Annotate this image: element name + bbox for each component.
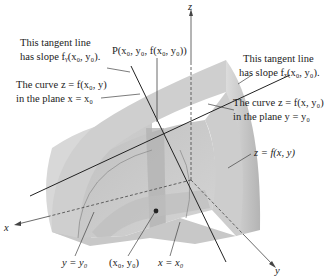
y-axis-label: y [274,265,280,276]
annotation-tangent-fy-line2: has slope fᵧ(x₀, y₀). [20,51,100,63]
x-axis-arrow-icon [14,221,21,226]
annotation-plane-y0: y = y₀ [61,257,88,268]
partial-derivatives-diagram: z x y P(x₀, y₀, f(x₀, y₀)) This tangent … [0,0,330,276]
x-axis-front [18,216,50,224]
annotation-tangent-fx-line2: has slope fₓ(x₀, y₀). [239,67,320,79]
z-axis-label: z [187,1,192,12]
annotation-tangent-fx-line1: This tangent line [243,53,314,64]
annotation-curve-x0-line1: The curve z = f(x₀, y) [16,79,107,91]
annotation-curve-x0-line2: in the plane x = x₀ [16,93,93,104]
annotation-curve-y0-line1: The curve z = f(x, y₀) [233,97,324,109]
annotation-plane-x0: x = x₀ [157,257,184,268]
x-axis-label: x [3,222,9,233]
y-axis-front [243,234,273,265]
annotation-tangent-fy-line1: This tangent line [20,37,91,48]
annotation-base-point: (x₀, y₀) [109,257,140,269]
annotation-curve-y0-line2: in the plane y = y₀ [233,111,310,122]
point-p-label: P(x₀, y₀, f(x₀, y₀)) [112,45,187,57]
leader-curve-x0 [101,94,140,98]
leader-tangent-fy [107,68,130,72]
annotation-surface: z = f(x, y) [253,147,295,159]
